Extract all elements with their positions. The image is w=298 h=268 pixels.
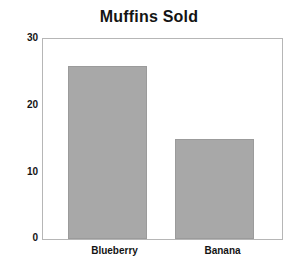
bar-chart: Muffins Sold 30 20 10 0 Blueberry Banana — [0, 0, 298, 268]
plot-area — [42, 38, 283, 240]
y-tick-label: 20 — [4, 100, 38, 110]
bar-banana — [175, 139, 254, 239]
chart-title: Muffins Sold — [0, 8, 298, 26]
y-tick-label: 0 — [4, 233, 38, 243]
y-tick-label: 10 — [4, 167, 38, 177]
y-axis: 30 20 10 0 — [0, 0, 38, 268]
bar-blueberry — [68, 66, 147, 239]
plot-inner — [43, 39, 282, 239]
x-tick-label-banana: Banana — [155, 245, 290, 257]
y-tick-label: 30 — [4, 33, 38, 43]
